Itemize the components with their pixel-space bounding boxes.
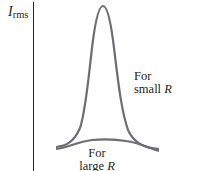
resonance-figure: Irms For small R For large R — [0, 0, 216, 171]
chart-canvas — [0, 0, 216, 171]
label-small-r: For small R — [134, 70, 172, 96]
label-large-r: For large R — [71, 147, 123, 171]
y-axis-label: Irms — [8, 5, 28, 19]
